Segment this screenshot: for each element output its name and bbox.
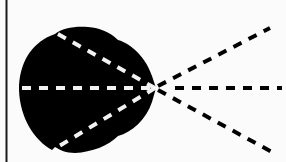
diagram-svg bbox=[0, 0, 286, 162]
diagram-canvas bbox=[0, 0, 286, 162]
ray-outer-lower-right bbox=[158, 90, 272, 152]
ray-outer-upper-right bbox=[158, 28, 270, 86]
outer-rays bbox=[158, 28, 282, 152]
vertex-point bbox=[154, 87, 157, 90]
